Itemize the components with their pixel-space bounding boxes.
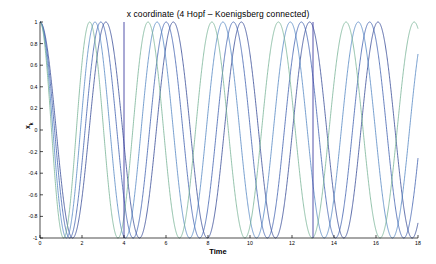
y-tick-label: -0.8 (29, 213, 38, 219)
y-tick-label: 1 (35, 19, 38, 25)
y-tick-label: 0.2 (30, 105, 37, 111)
y-tick-label: -0.2 (29, 149, 38, 155)
x-tick-label: 8 (207, 240, 210, 246)
plot-area: 024681012141618 -1-0.8-0.6-0.4-0.200.20.… (0, 0, 436, 264)
x-tick-label: 14 (331, 240, 337, 246)
x-tick-label: 10 (247, 240, 253, 246)
x-tick-label: 12 (289, 240, 295, 246)
y-tick-label: 0.4 (30, 84, 37, 90)
figure-canvas: x coordinate (4 Hopf – Koenigsberg conne… (0, 0, 436, 264)
x-tick-label: 0 (39, 240, 42, 246)
y-tick-label: -1 (33, 235, 38, 241)
y-tick-label: 0.6 (30, 62, 37, 68)
x-tick-label: 4 (123, 240, 126, 246)
x-tick-label: 16 (373, 240, 379, 246)
x-tick-label: 18 (415, 240, 421, 246)
x-tick-label: 2 (81, 240, 84, 246)
y-tick-label: -0.6 (29, 192, 38, 198)
y-tick-label: 0.8 (30, 41, 37, 47)
y-tick-label: 0 (35, 127, 38, 133)
y-tick-label: -0.4 (29, 170, 38, 176)
x-tick-label: 6 (165, 240, 168, 246)
